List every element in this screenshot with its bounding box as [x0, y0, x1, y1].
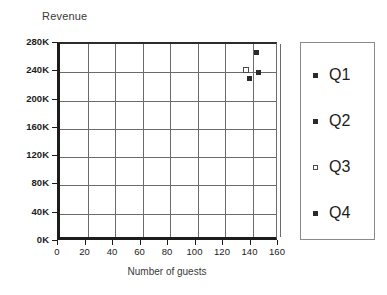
legend-item-q3[interactable]: Q3 [301, 153, 374, 181]
x-tick-label: 160 [257, 246, 297, 257]
legend-item-q2[interactable]: Q2 [301, 107, 374, 135]
legend: Q1Q2Q3Q4 [300, 42, 375, 240]
gridline-horizontal [60, 157, 276, 158]
gridline-horizontal [60, 129, 276, 130]
y-axis-tick [52, 42, 57, 43]
x-axis-tick [85, 240, 86, 245]
y-axis-tick [52, 240, 57, 241]
y-tick-label: 0K [5, 234, 49, 245]
legend-marker-icon [313, 73, 318, 78]
data-point-q2 [256, 70, 261, 75]
gridline-horizontal [60, 185, 276, 186]
y-tick-label: 40K [5, 206, 49, 217]
y-axis-tick [52, 127, 57, 128]
y-axis-tick [52, 212, 57, 213]
legend-label: Q2 [329, 113, 350, 129]
x-axis-tick [112, 240, 113, 245]
gridline-horizontal [60, 101, 276, 102]
y-tick-label: 240K [5, 64, 49, 75]
gridline-horizontal [60, 214, 276, 215]
legend-marker-icon [313, 165, 318, 170]
data-point-q3 [243, 67, 249, 73]
y-tick-label: 120K [5, 149, 49, 160]
y-axis-tick [52, 183, 57, 184]
y-axis-tick [52, 99, 57, 100]
x-axis-tick [250, 240, 251, 245]
legend-label: Q3 [329, 159, 350, 175]
legend-marker-icon [313, 211, 318, 216]
y-tick-label: 200K [5, 93, 49, 104]
data-point-q1 [254, 50, 259, 55]
legend-marker-icon [313, 119, 318, 124]
x-axis-tick [57, 240, 58, 245]
x-axis-title: Number of guests [57, 266, 277, 277]
legend-label: Q1 [329, 67, 350, 83]
x-axis-tick [140, 240, 141, 245]
chart-title: Revenue [42, 10, 87, 22]
legend-label: Q4 [329, 205, 350, 221]
legend-item-q1[interactable]: Q1 [301, 61, 374, 89]
y-axis-tick [52, 155, 57, 156]
plot-area [57, 42, 277, 240]
y-axis-tick [52, 70, 57, 71]
legend-item-q4[interactable]: Q4 [301, 199, 374, 227]
gridline-vertical [280, 44, 281, 237]
y-tick-label: 80K [5, 177, 49, 188]
data-point-q4 [247, 76, 252, 81]
y-tick-label: 160K [5, 121, 49, 132]
y-tick-label: 280K [5, 36, 49, 47]
x-axis-tick [195, 240, 196, 245]
x-axis-tick [167, 240, 168, 245]
x-axis-tick [277, 240, 278, 245]
revenue-scatter-chart: Revenue 020406080100120140160 0K40K80K12… [0, 0, 387, 295]
x-axis-tick [222, 240, 223, 245]
